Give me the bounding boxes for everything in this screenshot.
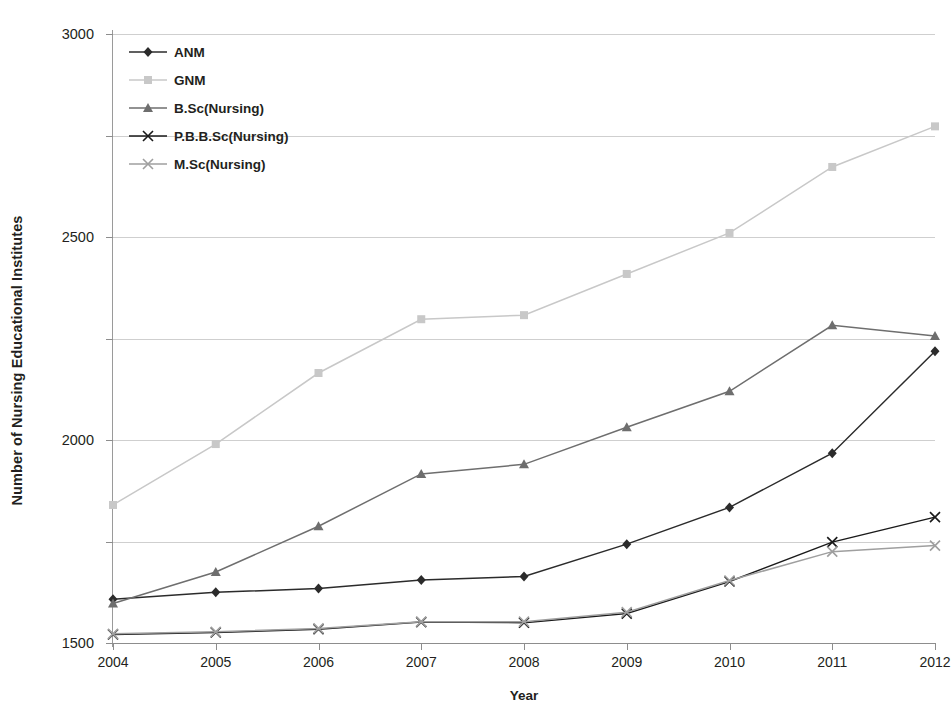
legend-item-m-sc-nursing[interactable]: M.Sc(Nursing) [128,150,328,178]
data-point-diamond [520,571,529,581]
series-anm [109,346,940,604]
x-axis-tick-label: 2005 [200,654,231,670]
data-point-square [623,270,631,278]
data-point-square [726,229,734,237]
data-point-diamond [144,47,153,57]
data-point-diamond [417,575,426,585]
data-point-cross [930,512,940,522]
y-axis-tick: 3000 [106,34,113,35]
x-axis-tick-label: 2008 [508,654,539,670]
x-axis-tick-label: 2010 [714,654,745,670]
data-point-square [315,369,323,377]
data-point-square [417,315,425,323]
data-point-triangle [725,386,735,395]
x-axis-tick-label: 2006 [303,654,334,670]
x-axis-tick-label: 2012 [919,654,950,670]
data-point-triangle [827,320,837,329]
legend-label: GNM [174,73,206,88]
x-axis-title: Year [113,688,935,703]
line-chart: Number of Nursing Educational Institutes… [0,0,952,721]
data-point-diamond [725,502,734,512]
x-axis-tick [627,643,628,650]
data-point-triangle [211,567,221,576]
y-axis-tick: 1000 [106,440,113,441]
y-axis-tick: 0 [106,643,113,644]
y-axis-tick-label: 2000 [62,432,94,448]
x-axis-tick [832,643,833,650]
x-axis-tick [421,643,422,650]
data-point-square [828,163,836,171]
x-axis-tick-label: 2011 [817,654,847,670]
y-axis-tick-label: 1500 [62,635,94,651]
legend-item-anm[interactable]: ANM [128,38,328,66]
series-m-sc-nursing [108,541,940,639]
y-axis-tick: 500 [106,542,113,543]
data-point-diamond [211,587,220,597]
data-point-diamond [314,584,323,594]
data-point-triangle [314,521,324,530]
x-axis-tick [524,643,525,650]
legend-marker-cross-icon [128,129,168,143]
y-axis-tick-label: 3000 [62,26,94,42]
legend-label: ANM [174,45,205,60]
data-point-square [212,440,220,448]
data-point-diamond [622,539,631,549]
y-axis-tick: 1500 [106,339,113,340]
legend-item-b-sc-nursing[interactable]: B.Sc(Nursing) [128,94,328,122]
data-point-square [144,76,152,84]
legend-label: P.B.B.Sc(Nursing) [174,129,289,144]
y-axis-tick: 2500 [106,136,113,137]
x-axis-tick-label: 2009 [611,654,642,670]
legend-marker-diamond-icon [128,45,168,59]
y-axis-tick-label: 2500 [62,229,94,245]
data-point-square [109,501,117,509]
x-axis-tick-label: 2004 [97,654,128,670]
legend-label: B.Sc(Nursing) [174,101,264,116]
legend-item-p-b-b-sc-nursing[interactable]: P.B.B.Sc(Nursing) [128,122,328,150]
legend-item-gnm[interactable]: GNM [128,66,328,94]
legend-marker-cross-icon [128,157,168,171]
legend-marker-square-icon [128,73,168,87]
legend-marker-triangle-icon [128,101,168,115]
series-b-sc-nursing [108,320,940,607]
y-axis-tick: 2000 [106,237,113,238]
data-point-cross [827,537,837,547]
legend-label: M.Sc(Nursing) [174,157,266,172]
data-point-square [931,122,939,130]
data-point-square [520,311,528,319]
legend: ANMGNMB.Sc(Nursing)P.B.B.Sc(Nursing)M.Sc… [128,38,328,178]
series-gnm [109,122,939,509]
x-axis-tick-label: 2007 [406,654,437,670]
x-axis-tick [216,643,217,650]
x-axis-tick [319,643,320,650]
x-axis-tick [113,643,114,650]
x-axis-tick [935,643,936,650]
x-axis-tick [730,643,731,650]
y-axis-title: Number of Nursing Educational Institutes [0,0,34,721]
